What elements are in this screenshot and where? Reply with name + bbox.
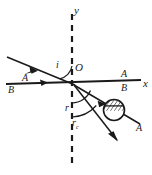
- angle-arc-i: [60, 66, 72, 79]
- origin-label: O: [75, 62, 83, 73]
- refracted-ray-2-arrowhead: [108, 131, 118, 141]
- incident-ray-label-b: B: [8, 85, 14, 95]
- refracted-ray-end-label: A: [136, 123, 142, 133]
- angle-r-label: r: [65, 103, 69, 113]
- incident-ray-label-a: A: [22, 73, 28, 83]
- angle-rc-subscript: c: [76, 124, 79, 130]
- angle-rc-label: rc: [72, 118, 79, 130]
- angle-i-label: i: [56, 60, 59, 70]
- angle-arc-rc: [72, 106, 96, 118]
- x-axis-label: x: [143, 78, 148, 89]
- y-axis-label: y: [74, 5, 79, 16]
- optics-ray-diagram: y x O i A B A B r rc A: [0, 0, 152, 175]
- axis-ray-label-a: A: [121, 69, 127, 79]
- diagram-canvas: [0, 0, 152, 175]
- axis-ray-arrowhead: [40, 80, 48, 86]
- axis-ray-label-b: B: [121, 83, 127, 93]
